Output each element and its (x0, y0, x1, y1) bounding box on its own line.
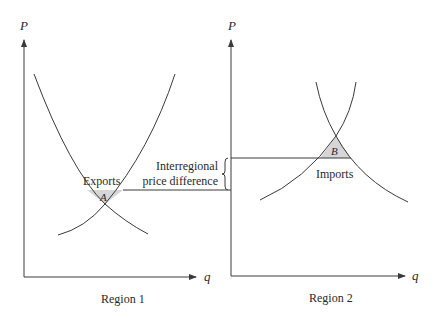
region2-supply-curve (260, 82, 356, 200)
annotation-line2: price difference (143, 174, 218, 188)
region2-x-axis-label: q (412, 268, 419, 283)
imports-label: Imports (316, 167, 354, 181)
equilibrium-label-a: A (99, 191, 107, 203)
region2-demand-curve (316, 82, 408, 202)
region1-title: Region 1 (101, 292, 145, 306)
region2-title: Region 2 (309, 291, 353, 305)
region1-demand-curve (34, 74, 148, 234)
annotation-line1: Interregional (156, 159, 219, 173)
equilibrium-label-b: B (331, 145, 338, 157)
trade-diagram: P q Region 1 Exports A Interregional pri… (0, 0, 441, 318)
region1-y-axis-label: P (19, 18, 28, 33)
price-difference-brace (222, 158, 228, 190)
region2-panel (231, 40, 408, 276)
region1-x-axis-label: q (204, 269, 211, 284)
region2-y-axis-label: P (227, 18, 236, 33)
exports-label: Exports (83, 174, 121, 188)
region1-supply-curve (58, 74, 175, 235)
